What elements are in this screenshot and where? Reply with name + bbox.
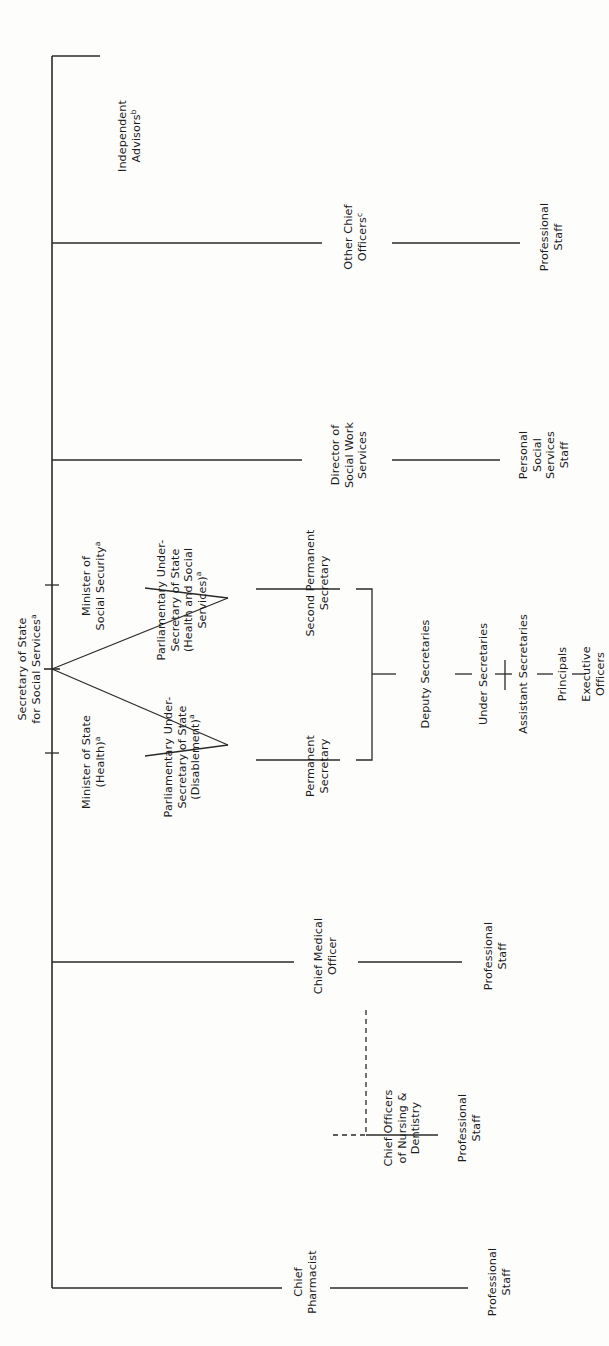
node-chief-officers-nursing: Chief Officers of Nursing & Dentistry (382, 1089, 423, 1166)
node-assistant-secretaries: Assistant Secretaries (517, 614, 531, 734)
footnote-marker-a-root: a (28, 614, 37, 619)
node-pus-health-social: Parliamentary Under- Secretary of State … (155, 540, 209, 661)
node-other-chief-officers-staff: Professional Staff (538, 203, 565, 271)
node-director-social-work: Director of Social Work Services (329, 422, 370, 488)
node-permanent-secretary: Permanent Secretary (304, 735, 331, 797)
node-executive-officers: Executive Officers (580, 646, 607, 701)
footnote-marker-a-mss: a (92, 542, 101, 547)
node-chief-medical-officer: Chief Medical Officer (312, 918, 339, 995)
node-independent-advisors: Independent Advisorsb (116, 100, 143, 172)
node-personal-social-services-staff: Personal Social Services Staff (517, 431, 571, 479)
footnote-marker-a-pusd: a (187, 714, 196, 719)
footnote-marker-a-mh: a (92, 736, 101, 741)
org-chart: Independent Advisorsb Other Chief Office… (0, 0, 609, 1346)
node-chief-pharmacist: Chief Pharmacist (292, 1250, 319, 1313)
bracket-permanent-secretaries (356, 589, 372, 760)
footnote-marker-b: b (128, 109, 137, 114)
footnote-marker-c: c (354, 213, 363, 217)
node-chief-pharmacist-staff: Professional Staff (486, 1248, 513, 1316)
node-chief-medical-staff: Professional Staff (482, 922, 509, 990)
node-secretary-of-state: Secretary of State for Social Servicesa (16, 614, 43, 724)
node-chief-officers-nursing-staff: Professional Staff (456, 1094, 483, 1162)
node-minister-health: Minister of State (Health)a (80, 715, 107, 809)
node-second-permanent-secretary: Second Permanent Secretary (304, 529, 331, 636)
node-pus-disablement: Parliamentary Under- Secretary of State … (162, 697, 203, 818)
node-principals: Principals (556, 647, 570, 702)
dashed-link-nursing-dentistry (332, 1010, 366, 1135)
node-under-secretaries: Under Secretaries (477, 623, 491, 725)
node-other-chief-officers: Other Chief Officersc (342, 204, 369, 269)
node-deputy-secretaries: Deputy Secretaries (419, 619, 433, 728)
footnote-marker-a-pushs: a (194, 571, 203, 576)
node-minister-social-security: Minister of Social Securitya (80, 542, 107, 631)
